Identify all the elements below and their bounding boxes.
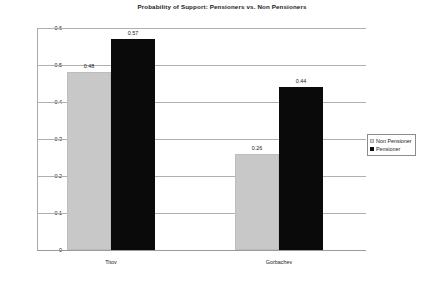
value-label-gorbachev-non-pensioner: 0.26	[235, 145, 279, 151]
value-label-gorbachev-pensioner: 0.44	[279, 78, 323, 84]
chart-legend: Non Pensioner Pensioner	[367, 134, 416, 156]
category-label-titov: Titov	[47, 259, 175, 265]
chart-title: Probability of Support: Pensioners vs. N…	[0, 3, 444, 10]
bar-titov-non-pensioner[interactable]	[67, 72, 111, 250]
legend-entry-pensioner[interactable]: Pensioner	[370, 145, 412, 153]
legend-label-pensioner: Pensioner	[376, 145, 400, 153]
legend-swatch-icon-pensioner	[370, 147, 374, 151]
legend-entry-non-pensioner[interactable]: Non Pensioner	[370, 137, 412, 145]
bar-gorbachev-pensioner[interactable]	[279, 87, 323, 250]
value-label-titov-pensioner: 0.57	[111, 30, 155, 36]
value-label-titov-non-pensioner: 0.48	[67, 63, 111, 69]
bar-gorbachev-non-pensioner[interactable]	[235, 154, 279, 250]
gridline-0.6	[37, 28, 366, 29]
legend-label-non-pensioner: Non Pensioner	[376, 137, 412, 145]
legend-swatch-icon-non-pensioner	[370, 139, 374, 143]
gridline-0	[37, 250, 366, 251]
category-label-gorbachev: Gorbachev	[215, 259, 343, 265]
bar-titov-pensioner[interactable]	[111, 39, 155, 250]
bar-chart: Probability of Support: Pensioners vs. N…	[0, 0, 444, 289]
plot-area	[37, 28, 366, 250]
